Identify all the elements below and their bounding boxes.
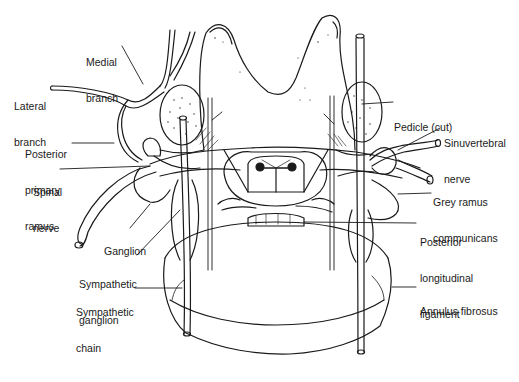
label-sympathetic-chain: Sympathetic chain bbox=[76, 282, 134, 378]
label-annulus-fibrosus: Annulus fibrosus bbox=[420, 281, 498, 341]
label-spinal-nerve: Spinal nerve bbox=[33, 162, 62, 258]
disc-rim bbox=[170, 300, 384, 325]
posterior-longitudinal-ligament bbox=[248, 214, 304, 227]
anatomy-diagram: Medial branch Lateral branch Posterior p… bbox=[0, 0, 519, 382]
right-pedicle bbox=[342, 82, 382, 142]
posterior-primary-ramus bbox=[118, 100, 142, 162]
label-medial-branch: Medial branch bbox=[86, 32, 118, 128]
left-pedicle bbox=[160, 85, 204, 145]
lamina-outline bbox=[200, 15, 355, 150]
right-sympathetic-chain bbox=[356, 38, 364, 352]
medial-branch bbox=[160, 30, 175, 88]
